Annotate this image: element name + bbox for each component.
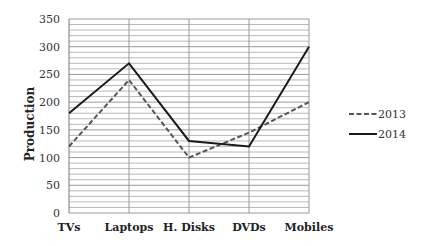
- y-tick-label: 250: [39, 68, 60, 81]
- y-tick-label: 0: [53, 207, 60, 220]
- y-axis-label: Production: [23, 86, 37, 161]
- x-category-label: Mobiles: [285, 221, 334, 234]
- y-axis-ticks: 050100150200250300350: [39, 13, 60, 220]
- legend-label: 2013: [378, 108, 406, 121]
- y-tick-label: 150: [39, 124, 60, 137]
- legend-item-2014: 2014: [349, 128, 406, 141]
- x-axis-categories: TVsLaptopsH. DisksDVDsMobiles: [58, 221, 334, 234]
- legend-item-2013: 2013: [349, 108, 406, 121]
- y-tick-label: 200: [39, 96, 60, 109]
- grid-lines: [69, 19, 309, 213]
- x-category-label: DVDs: [232, 221, 266, 234]
- line-chart: 050100150200250300350 TVsLaptopsH. Disks…: [0, 0, 423, 246]
- y-tick-label: 300: [39, 41, 60, 54]
- y-tick-label: 100: [39, 152, 60, 165]
- y-tick-label: 50: [46, 179, 60, 192]
- y-tick-label: 350: [39, 13, 60, 26]
- x-category-label: H. Disks: [163, 221, 215, 234]
- legend-label: 2014: [378, 128, 406, 141]
- x-category-label: TVs: [58, 221, 81, 234]
- legend: 2013 2014: [349, 108, 406, 141]
- x-category-label: Laptops: [105, 221, 154, 234]
